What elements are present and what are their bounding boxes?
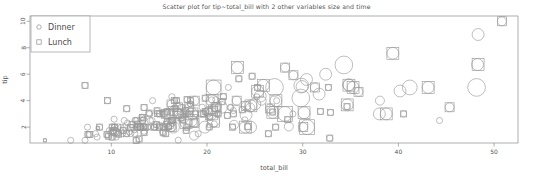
data-point-circle: [224, 112, 230, 118]
x-tick-label: 20: [203, 148, 211, 155]
data-point-circle: [236, 76, 242, 82]
data-point-circle: [422, 81, 434, 93]
data-points-layer: [43, 17, 506, 144]
x-tick-label: 40: [395, 148, 403, 155]
data-point-circle: [43, 139, 46, 142]
data-point-circle: [343, 79, 355, 91]
data-point-circle: [265, 131, 271, 137]
data-point-circle: [344, 104, 350, 110]
y-tick-label: 2: [20, 125, 27, 129]
data-point-circle: [209, 97, 215, 103]
legend-box: [31, 16, 90, 52]
x-tick-label: 10: [108, 148, 116, 155]
data-point-circle: [240, 109, 252, 121]
data-point-circle: [472, 29, 484, 41]
y-tick-label: 4: [20, 99, 27, 103]
scatter-chart: 1020304050246810total_billtip DinnerLunc…: [0, 0, 533, 178]
data-point-circle: [354, 87, 363, 96]
data-point-circle: [284, 122, 293, 131]
x-tick-label: 30: [299, 148, 307, 155]
data-point-circle: [111, 116, 117, 122]
y-tick-label: 8: [20, 46, 27, 50]
data-point-circle: [327, 109, 333, 115]
chart-legend[interactable]: DinnerLunch: [31, 16, 90, 52]
data-point-circle: [190, 131, 199, 140]
data-point-circle: [401, 111, 407, 117]
data-point-circle: [300, 120, 315, 135]
data-point-circle: [202, 95, 208, 101]
data-point-circle: [175, 137, 181, 143]
data-point-circle: [84, 124, 90, 130]
data-point-circle: [327, 135, 333, 141]
data-point-circle: [141, 130, 147, 136]
x-axis-title: total_bill: [260, 164, 288, 172]
data-point-circle: [341, 99, 353, 111]
scatter-plot-figure: Scatter plot for tip~total_bill with 2 o…: [0, 0, 533, 178]
legend-label-lunch[interactable]: Lunch: [48, 38, 72, 47]
data-point-circle: [380, 108, 392, 120]
data-point-circle: [298, 107, 310, 119]
data-point-circle: [206, 80, 221, 95]
data-point-square: [472, 59, 484, 71]
data-point-circle: [445, 103, 454, 112]
data-point-circle: [104, 98, 110, 104]
data-point-circle: [150, 98, 156, 104]
data-point-circle: [394, 85, 406, 97]
data-point-circle: [375, 96, 384, 105]
data-point-circle: [497, 17, 506, 26]
data-point-circle: [270, 95, 282, 107]
data-point-circle: [292, 89, 310, 107]
data-point-circle: [249, 73, 255, 79]
y-tick-label: 6: [20, 72, 27, 76]
data-point-circle: [335, 56, 353, 74]
data-point-circle: [141, 105, 147, 111]
data-point-circle: [301, 74, 313, 86]
data-point-circle: [325, 84, 331, 90]
data-point-circle: [82, 82, 88, 88]
data-point-circle: [281, 63, 290, 72]
data-point-circle: [436, 117, 442, 123]
data-point-circle: [387, 47, 399, 59]
data-point-circle: [373, 108, 385, 120]
y-axis-title: tip: [1, 75, 9, 83]
data-point-circle: [231, 62, 243, 74]
data-point-circle: [245, 121, 257, 133]
y-tick-label: 10: [20, 17, 27, 25]
data-point-circle: [310, 83, 319, 92]
data-point-circle: [225, 84, 231, 90]
data-point-circle: [232, 96, 241, 105]
data-point-circle: [82, 137, 88, 143]
data-point-circle: [274, 98, 280, 104]
legend-label-dinner[interactable]: Dinner: [48, 23, 75, 32]
data-point-circle: [68, 137, 74, 143]
data-point-circle: [472, 59, 484, 71]
data-point-circle: [289, 71, 298, 80]
data-point-circle: [266, 79, 284, 97]
data-point-circle: [239, 107, 245, 113]
data-point-circle: [299, 123, 308, 132]
data-point-circle: [320, 68, 332, 80]
data-point-circle: [273, 124, 279, 130]
data-point-circle: [290, 111, 296, 117]
data-point-circle: [468, 79, 486, 97]
data-point-circle: [317, 108, 323, 114]
data-point-circle: [245, 124, 251, 130]
data-point-circle: [124, 106, 130, 112]
x-tick-label: 50: [490, 148, 498, 155]
